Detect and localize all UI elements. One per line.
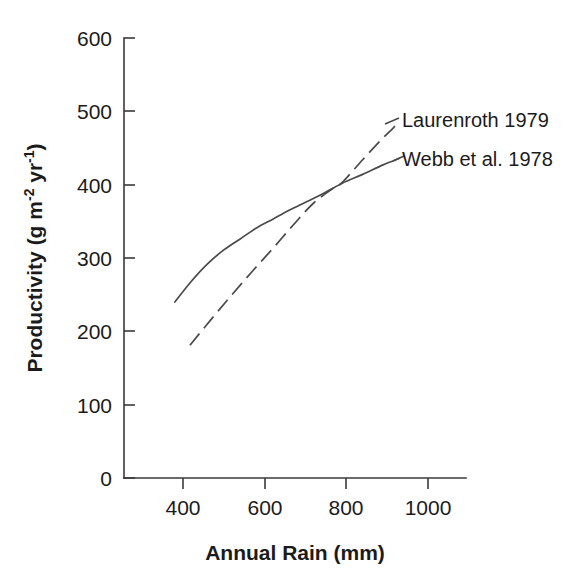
x-tick-label-600: 600 (247, 496, 282, 519)
productivity-vs-rain-chart: 600 500 400 300 200 100 0 400 600 800 10… (0, 0, 577, 588)
y-axis-title-part-a: Productivity (g m (23, 201, 46, 373)
y-tick-label-200: 200 (77, 320, 112, 343)
y-tick-label-100: 100 (77, 394, 112, 417)
x-axis-title: Annual Rain (mm) (205, 541, 385, 564)
series-line-webb-et-al-1978 (175, 158, 400, 302)
y-tick-label-400: 400 (77, 174, 112, 197)
y-tick-label-500: 500 (77, 100, 112, 123)
y-axis-ticks (124, 38, 135, 478)
y-axis-title-part-b: yr (23, 163, 46, 189)
axes-group (124, 38, 466, 478)
y-axis-title: Productivity (g m-2 yr-1) (21, 143, 46, 372)
data-series-group (175, 126, 400, 345)
chart-figure: 600 500 400 300 200 100 0 400 600 800 10… (0, 0, 577, 588)
x-tick-label-1000: 1000 (405, 496, 452, 519)
series-label-webb-et-al-1978: Webb et al. 1978 (402, 148, 553, 170)
y-tick-label-600: 600 (77, 27, 112, 50)
leader-line-laurenroth (385, 118, 399, 124)
y-tick-label-300: 300 (77, 247, 112, 270)
x-tick-label-400: 400 (165, 496, 200, 519)
series-label-laurenroth-1979: Laurenroth 1979 (402, 109, 549, 131)
x-axis-ticks (183, 478, 428, 489)
svg-text:Productivity (g m-2 yr-1): Productivity (g m-2 yr-1) (21, 143, 46, 372)
series-line-laurenroth-1979 (190, 126, 395, 345)
y-axis-title-sup-2: -1 (21, 150, 37, 163)
x-tick-label-800: 800 (328, 496, 363, 519)
y-axis-title-part-c: ) (23, 143, 46, 150)
x-axis-tick-labels: 400 600 800 1000 (165, 496, 451, 519)
y-tick-label-0: 0 (100, 467, 112, 490)
y-axis-title-sup-1: -2 (21, 188, 37, 201)
y-axis-tick-labels: 600 500 400 300 200 100 0 (77, 27, 112, 490)
